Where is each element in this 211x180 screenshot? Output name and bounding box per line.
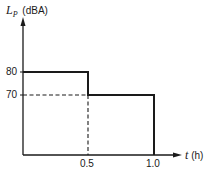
x-tick-label-1-0: 1.0 [146, 159, 160, 169]
y-tick-label-70: 70 [6, 90, 17, 100]
y-tick-label-80: 80 [6, 67, 17, 77]
y-axis-symbol: L [6, 3, 13, 17]
x-axis-label: t (h) [185, 149, 203, 161]
y-axis-label: LP (dBA) [6, 4, 48, 19]
step-chart [0, 0, 211, 180]
y-axis-subscript: P [13, 10, 18, 19]
x-axis-arrow-icon [173, 153, 182, 158]
x-axis-unit: (h) [191, 150, 203, 161]
x-tick-label-0-5: 0.5 [80, 159, 94, 169]
y-axis-unit: (dBA) [22, 5, 48, 16]
x-axis-symbol: t [185, 148, 188, 162]
